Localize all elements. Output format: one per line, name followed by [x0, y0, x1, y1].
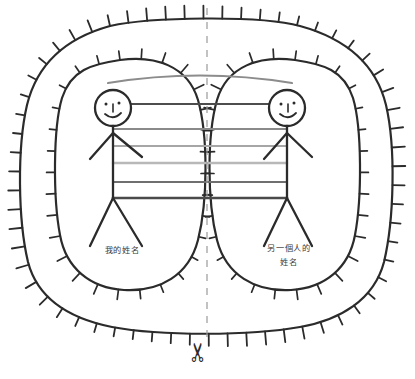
- left-figure-eye-left: [105, 103, 108, 106]
- left-figure-name-label: 我的姓名: [105, 245, 140, 255]
- left-figure-eye-right: [118, 102, 121, 105]
- right-figure-name-label-line1: 另一個人的: [267, 243, 311, 253]
- right-figure-eye-left: [280, 103, 283, 106]
- scissors-icon: ✂: [183, 341, 213, 363]
- right-figure-name-label-line2: 姓名: [280, 257, 297, 267]
- left-spiky-oval: [46, 49, 214, 299]
- sketch-drawing: 我的姓名 另一個人的 姓名 ✂: [0, 0, 415, 379]
- right-figure-eye-right: [293, 102, 296, 105]
- diagram-canvas: 我的姓名 另一個人的 姓名 ✂: [0, 0, 415, 379]
- right-figure-head: [269, 90, 305, 126]
